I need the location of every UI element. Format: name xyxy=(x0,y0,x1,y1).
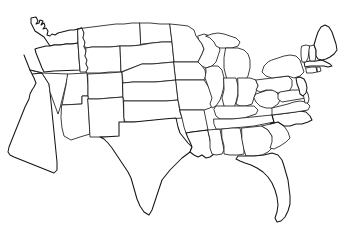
state-co xyxy=(88,72,123,99)
state-wy xyxy=(85,46,121,73)
state-or xyxy=(35,43,80,72)
map-canvas xyxy=(0,0,342,236)
state-in xyxy=(222,78,238,108)
state-ct xyxy=(306,67,317,73)
state-ri xyxy=(317,67,321,72)
state-ks xyxy=(123,80,178,101)
state-al xyxy=(222,128,244,155)
us-states-outline-map: United States State Outline Map xyxy=(0,0,342,236)
